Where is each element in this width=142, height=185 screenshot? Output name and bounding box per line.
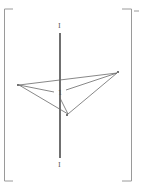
diagram-canvas: I 1 I bbox=[0, 0, 142, 185]
vertex-left bbox=[17, 84, 19, 86]
right-bracket bbox=[122, 9, 139, 181]
vertex-bottom bbox=[66, 114, 68, 116]
vertex-right bbox=[117, 71, 119, 73]
axis-center-label: 1 bbox=[58, 89, 62, 97]
axis-top-label: I bbox=[58, 22, 61, 30]
triangle-edges bbox=[19, 73, 117, 114]
left-bracket bbox=[5, 9, 14, 181]
axis-bottom-label: I bbox=[58, 161, 61, 169]
